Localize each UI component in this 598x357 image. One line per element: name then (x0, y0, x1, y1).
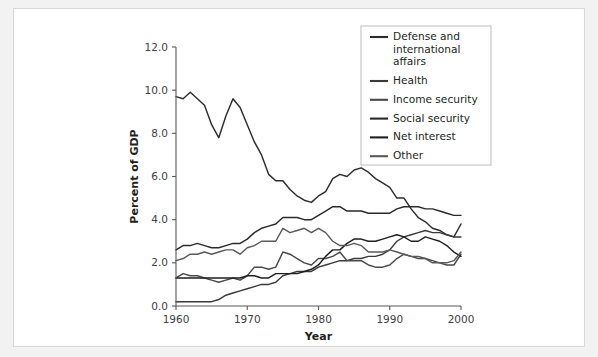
y-tick-label: 2.0 (151, 256, 168, 268)
legend-label-2: Income security (393, 93, 478, 105)
legend-label-3: Social security (393, 112, 470, 124)
legend-label-0: Defense and (393, 30, 460, 42)
line-chart: 0.02.04.06.08.010.012.019601970198019902… (14, 9, 586, 348)
x-tick-label: 1990 (376, 313, 403, 325)
y-axis-title: Percent of GDP (128, 129, 141, 223)
x-tick-label: 1980 (305, 313, 332, 325)
y-tick-label: 0.0 (151, 300, 168, 312)
y-tick-label: 4.0 (151, 213, 168, 225)
y-tick-label: 10.0 (145, 84, 168, 96)
series-line-5 (176, 228, 461, 263)
x-axis-title: Year (304, 330, 333, 343)
legend-label-5: Other (393, 149, 424, 161)
legend-label-0: international (393, 43, 460, 55)
y-tick-label: 6.0 (151, 170, 168, 182)
legend-label-4: Net interest (393, 130, 456, 142)
x-tick-label: 2000 (448, 313, 475, 325)
y-tick-label: 8.0 (151, 127, 168, 139)
x-tick-label: 1960 (163, 313, 190, 325)
figure-card: 0.02.04.06.08.010.012.019601970198019902… (13, 8, 585, 347)
chart-legend: Defense andinternationalaffairsHealthInc… (361, 26, 491, 165)
x-tick-label: 1970 (234, 313, 261, 325)
y-tick-label: 12.0 (145, 41, 168, 53)
legend-label-0: affairs (393, 55, 426, 67)
legend-label-1: Health (393, 74, 428, 86)
